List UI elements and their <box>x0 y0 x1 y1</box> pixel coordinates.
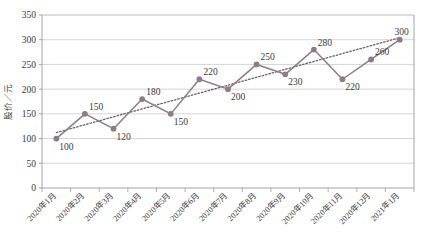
data-point-label: 100 <box>59 142 74 152</box>
y-tick-label: 150 <box>22 109 37 119</box>
data-point-marker <box>196 76 202 82</box>
data-point-label: 150 <box>174 117 189 127</box>
data-point-marker <box>254 62 260 68</box>
y-tick-label: 50 <box>27 159 37 169</box>
data-point-label: 280 <box>318 38 333 48</box>
data-point-label: 220 <box>345 82 360 92</box>
data-point-marker <box>82 111 88 117</box>
y-axis-title: 股价／元 <box>3 84 13 120</box>
data-point-marker <box>368 57 374 63</box>
y-tick-label: 350 <box>22 10 37 20</box>
data-point-label: 180 <box>146 87 161 97</box>
y-axis-title-text: 股价／元 <box>3 84 13 120</box>
data-point-marker <box>311 47 317 53</box>
data-point-label: 200 <box>231 92 246 102</box>
data-point-marker <box>139 96 145 102</box>
y-tick-label: 300 <box>22 35 37 45</box>
stock-price-line-chart: 050100150200250300350 2020年1月2020年2月2020… <box>0 0 422 248</box>
data-point-label: 220 <box>203 67 218 77</box>
chart-canvas: 050100150200250300350 2020年1月2020年2月2020… <box>0 0 422 248</box>
data-point-label: 150 <box>89 102 104 112</box>
y-tick-label: 0 <box>31 183 36 193</box>
data-point-marker <box>397 37 403 43</box>
data-point-label: 250 <box>261 52 276 62</box>
y-tick-label: 200 <box>22 85 37 95</box>
y-tick-label: 250 <box>22 60 37 70</box>
y-tick-label: 100 <box>22 134 37 144</box>
data-point-label: 230 <box>288 77 303 87</box>
data-point-label: 300 <box>395 27 410 37</box>
data-point-label: 260 <box>375 47 390 57</box>
data-point-label: 120 <box>117 132 131 142</box>
